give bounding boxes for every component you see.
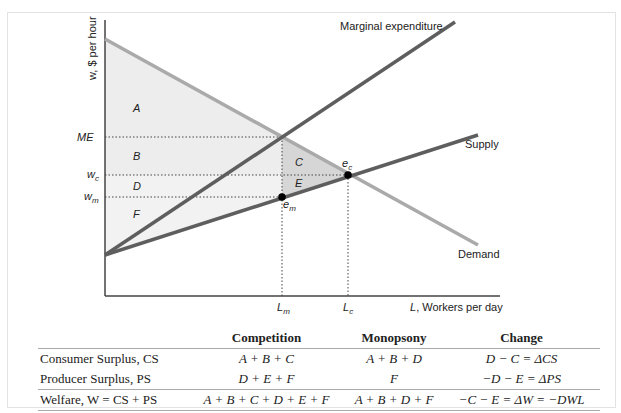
row-label: Welfare, W = CS + PS — [38, 390, 188, 411]
table-row: Producer Surplus, PS D + E + F F −D − E … — [38, 369, 600, 390]
table-header-row: Competition Monopsony Change — [38, 329, 600, 349]
row-label: Producer Surplus, PS — [38, 369, 188, 390]
y-axis-label: w, $ per hour — [86, 16, 98, 81]
surplus-table: Competition Monopsony Change Consumer Su… — [38, 329, 600, 411]
supply-label: Supply — [465, 138, 499, 150]
point-ec — [344, 171, 352, 179]
cell: D + E + F — [188, 369, 345, 390]
x-axis-label: L, Workers per day — [410, 301, 503, 313]
header-competition: Competition — [188, 329, 345, 349]
header-change: Change — [443, 329, 600, 349]
table-row: Welfare, W = CS + PS A + B + C + D + E +… — [38, 390, 600, 411]
region-b-label: B — [133, 150, 140, 162]
cell: A + B + C + D + E + F — [188, 390, 345, 411]
region-a-label: A — [132, 102, 140, 114]
region-d-label: D — [133, 180, 141, 192]
cell: A + B + D — [345, 349, 443, 370]
demand-label: Demand — [458, 248, 500, 260]
row-label: Consumer Surplus, CS — [38, 349, 188, 370]
cell: A + B + C — [188, 349, 345, 370]
tick-me: ME — [77, 131, 94, 143]
cell: A + B + D + F — [345, 390, 443, 411]
point-em-label: em — [283, 198, 296, 213]
tick-wc: wc — [87, 168, 99, 183]
cell: −C − E = ΔW = −DWL — [443, 390, 600, 411]
region-e-label: E — [295, 177, 303, 189]
table-row: Consumer Surplus, CS A + B + C A + B + D… — [38, 349, 600, 370]
header-monopsony: Monopsony — [345, 329, 443, 349]
marginal-expenditure-label: Marginal expenditure — [340, 20, 443, 32]
tick-lm: Lm — [277, 301, 290, 316]
tick-lc: Lc — [343, 301, 353, 316]
cell: F — [345, 369, 443, 390]
header-blank — [38, 329, 188, 349]
cell: −D − E = ΔPS — [443, 369, 600, 390]
tick-wm: wm — [84, 190, 99, 205]
cell: D − C = ΔCS — [443, 349, 600, 370]
region-c-label: C — [295, 156, 303, 168]
